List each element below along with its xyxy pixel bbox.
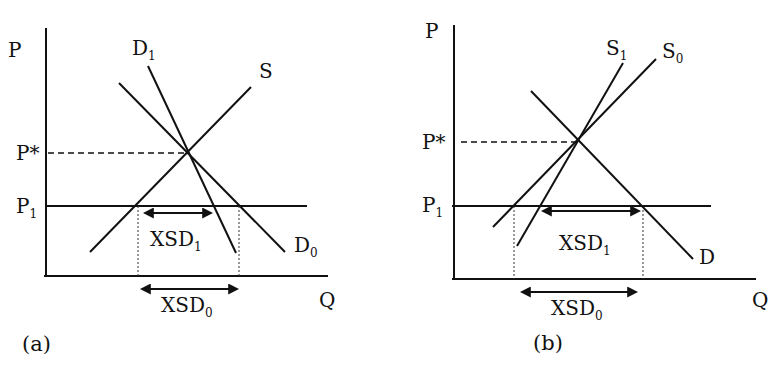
world-price-label: P1: [16, 194, 37, 221]
panel-caption-a: (a): [22, 332, 51, 356]
panel-a: P Q P* P1 D1 S D0 XSD1 XSD0 (a): [8, 28, 335, 356]
supply-curve-s1: [517, 63, 623, 246]
x-axis-label: Q: [319, 288, 335, 312]
supply-curve-s0: [493, 59, 656, 227]
curve-label-d1: D1: [132, 36, 156, 63]
equilibrium-price-label: P*: [16, 141, 39, 165]
xsd0-label: XSD0: [161, 293, 213, 320]
demand-curve-d: [531, 91, 693, 259]
curve-label-d0: D0: [294, 233, 318, 260]
xsd1-label: XSD1: [559, 231, 611, 258]
curve-label-s0: S0: [662, 39, 683, 66]
x-axis-label: Q: [752, 288, 768, 312]
equilibrium-price-label: P*: [422, 130, 445, 154]
panel-b: P Q P* P1 S1 S0 D XSD1 XSD0 (b): [422, 19, 768, 355]
curve-label-d: D: [699, 245, 715, 269]
xsd1-label: XSD1: [150, 227, 202, 254]
xsd0-label: XSD0: [551, 296, 603, 323]
panel-caption-b: (b): [533, 331, 563, 355]
supply-demand-figure: P Q P* P1 D1 S D0 XSD1 XSD0 (a) P Q P* P: [0, 0, 778, 365]
y-axis-label: P: [425, 19, 438, 43]
demand-curve-d0: [119, 83, 285, 252]
demand-curve-d1: [148, 66, 236, 253]
curve-label-s1: S1: [606, 36, 627, 63]
y-axis-label: P: [8, 38, 21, 62]
world-price-label: P1: [422, 193, 443, 220]
curve-label-s: S: [259, 59, 273, 83]
